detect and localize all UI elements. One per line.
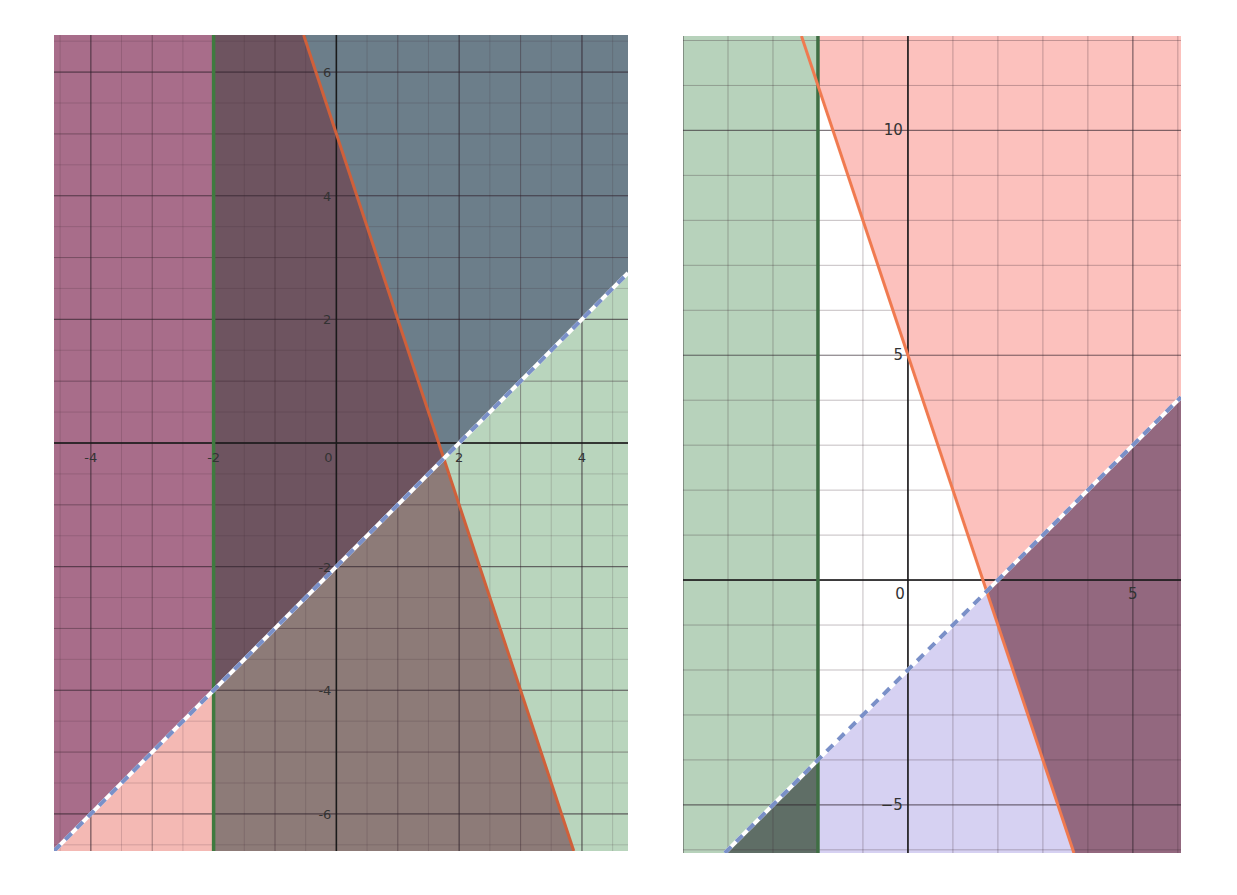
right-graph-canvas: 05−5510 [683, 36, 1181, 853]
y-tick-label: 10 [884, 121, 903, 139]
y-tick-label: 4 [323, 189, 331, 204]
x-tick-label: 2 [455, 450, 463, 465]
x-tick-label: 0 [324, 450, 332, 465]
y-tick-label: -2 [318, 560, 331, 575]
y-tick-label: 2 [323, 312, 331, 327]
y-tick-label: -4 [318, 683, 331, 698]
left-inequality-graph: -4-2024-6-4-2246 [54, 35, 628, 851]
region-left-band [683, 36, 818, 853]
y-tick-label: 6 [323, 65, 331, 80]
y-tick-label: 5 [893, 346, 903, 364]
x-tick-label: 0 [895, 585, 905, 603]
right-inequality-graph: 05−5510 [683, 36, 1181, 853]
y-tick-label: -6 [318, 807, 331, 822]
region-fills [683, 36, 1181, 853]
y-tick-label: −5 [881, 796, 903, 814]
x-tick-label: -2 [207, 450, 220, 465]
x-tick-label: -4 [84, 450, 97, 465]
left-graph-canvas: -4-2024-6-4-2246 [54, 35, 628, 851]
x-tick-label: 5 [1128, 585, 1138, 603]
x-tick-label: 4 [578, 450, 586, 465]
